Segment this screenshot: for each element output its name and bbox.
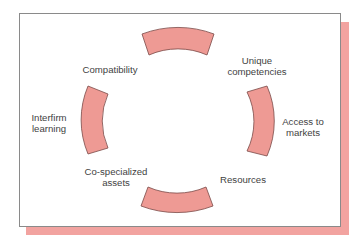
label-compatibility: Compatibility bbox=[83, 64, 138, 75]
label-line: competencies bbox=[227, 66, 286, 77]
label-line: Resources bbox=[220, 174, 266, 185]
label-interfirm-learning: Interfirm learning bbox=[31, 112, 66, 134]
label-line: Interfirm bbox=[31, 112, 66, 123]
label-line: Access to bbox=[282, 116, 324, 127]
label-line: markets bbox=[282, 127, 324, 138]
ring-segment-right bbox=[247, 86, 274, 156]
label-line: Compatibility bbox=[83, 64, 138, 75]
label-resources: Resources bbox=[220, 174, 266, 185]
label-co-specialized-assets: Co-specialized assets bbox=[85, 166, 148, 188]
label-line: Co-specialized bbox=[85, 166, 148, 177]
ring-segment-bottom bbox=[141, 187, 213, 213]
ring-segment-left bbox=[81, 86, 108, 154]
label-line: learning bbox=[31, 123, 66, 134]
label-line: Unique bbox=[227, 55, 286, 66]
label-unique-competencies: Unique competencies bbox=[227, 55, 286, 77]
ring-segment-top bbox=[142, 27, 214, 55]
label-line: assets bbox=[85, 177, 148, 188]
label-access-to-markets: Access to markets bbox=[282, 116, 324, 138]
